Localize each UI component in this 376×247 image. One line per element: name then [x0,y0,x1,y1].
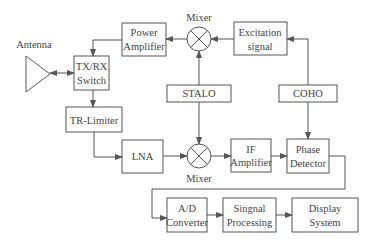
signal-processing-block: Singnal Processing [223,198,276,232]
tr-limiter-block: TR-Limiter [66,107,122,132]
power-amplifier-block: Power Amplifier [122,23,166,56]
bottom-mixer-label: Mixer [186,173,212,184]
antenna-icon [26,56,50,92]
svg-text:Amplifier: Amplifier [123,41,165,52]
svg-text:Detector: Detector [290,158,327,169]
coho-block: COHO [279,85,337,102]
svg-text:Singnal: Singnal [233,203,265,214]
svg-text:Converter: Converter [166,217,208,228]
svg-text:TX/RX: TX/RX [76,61,108,72]
svg-text:System: System [310,217,341,228]
svg-text:A/D: A/D [178,203,197,214]
stalo-block: STALO [167,85,231,102]
svg-text:Power: Power [131,27,158,38]
bottom-mixer: Mixer [186,144,212,184]
svg-text:Excitation: Excitation [238,27,282,38]
svg-text:Switch: Switch [77,75,107,86]
display-system-block: Display System [292,198,358,232]
svg-text:COHO: COHO [293,88,323,99]
top-mixer: Mixer [186,12,212,51]
svg-text:Processing: Processing [227,217,273,228]
antenna-label: Antenna [16,39,52,50]
phase-detector-block: Phase Detector [287,139,329,173]
excitation-signal-block: Excitation signal [234,22,287,55]
svg-text:signal: signal [247,41,272,52]
svg-text:TR-Limiter: TR-Limiter [70,115,119,126]
svg-text:Amplifier: Amplifier [230,157,272,168]
svg-text:Phase: Phase [296,144,321,155]
if-amplifier-block: IF Amplifier [230,139,272,172]
svg-text:IF: IF [246,144,255,155]
top-mixer-label: Mixer [186,12,212,23]
antenna: Antenna [16,39,52,92]
svg-text:STALO: STALO [183,88,216,99]
txrx-switch-block: TX/RX Switch [74,56,109,90]
svg-text:Display: Display [309,203,342,214]
ad-converter-block: A/D Converter [166,198,208,232]
lna-block: LNA [122,140,163,173]
svg-text:LNA: LNA [132,151,154,162]
radar-block-diagram: Antenna Power Amplifier Excitation signa… [0,0,376,247]
